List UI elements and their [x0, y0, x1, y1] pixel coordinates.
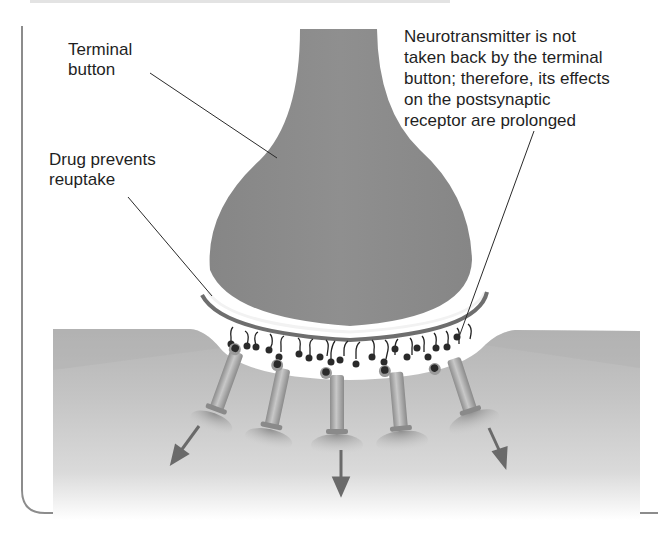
- label-neurotransmitter-note: Neurotransmitter is not taken back by th…: [404, 26, 610, 131]
- caption-remnant: [30, 0, 450, 3]
- leader-neurotransmitter-note: [459, 131, 534, 337]
- label-drug-prevents-reuptake: Drug prevents reuptake: [49, 150, 156, 190]
- synapse-diagram: Terminal button Drug prevents reuptake N…: [0, 0, 671, 540]
- leader-terminal-button: [150, 73, 277, 158]
- label-terminal-button: Terminal button: [68, 40, 132, 80]
- leader-drug-prevents-reuptake: [128, 197, 212, 296]
